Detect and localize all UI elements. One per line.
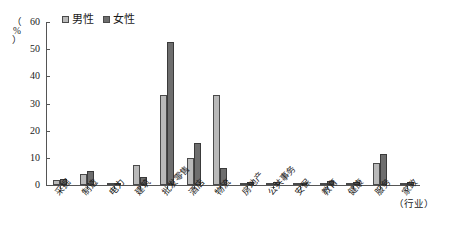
bar-group — [372, 22, 388, 185]
y-tick-label: 0 — [14, 180, 40, 190]
plot-area — [47, 22, 420, 185]
bar-male[interactable] — [160, 95, 167, 185]
bar-group — [292, 22, 308, 185]
bar-group — [265, 22, 281, 185]
bar-group — [345, 22, 361, 185]
y-tick-label: 20 — [14, 126, 40, 136]
y-tick-label: 10 — [14, 153, 40, 163]
y-tick-mark — [46, 185, 50, 186]
bar-male[interactable] — [213, 95, 220, 185]
bar-group — [212, 22, 228, 185]
bar-group — [186, 22, 202, 185]
y-tick-label: 40 — [14, 71, 40, 81]
bar-group — [52, 22, 68, 185]
bar-group — [399, 22, 415, 185]
chart-container: （ % ） 0102030405060 男性女性 采掘制造电力建筑批发零售酒店物… — [0, 0, 451, 250]
bar-female[interactable] — [167, 42, 174, 185]
y-tick-label: 60 — [14, 17, 40, 27]
bar-group — [319, 22, 335, 185]
bar-male[interactable] — [373, 163, 380, 185]
bar-group — [132, 22, 148, 185]
bar-group — [106, 22, 122, 185]
bar-group — [239, 22, 255, 185]
bar-group — [159, 22, 175, 185]
y-tick-label: 30 — [14, 99, 40, 109]
y-tick-label: 50 — [14, 44, 40, 54]
x-axis-title: （行业） — [394, 196, 434, 210]
bar-group — [79, 22, 95, 185]
